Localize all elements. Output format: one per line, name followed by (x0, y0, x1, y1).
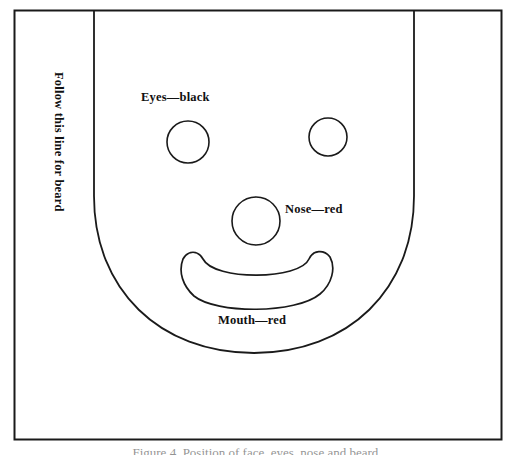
label-beard-guide: Follow this line for beard (51, 72, 66, 212)
figure-caption: Figure 4. Position of face, eyes, nose a… (0, 446, 514, 455)
figure-page: Eyes—black Nose—red Mouth—red Follow thi… (0, 0, 514, 455)
mouth-crescent (181, 252, 333, 310)
nose-circle (232, 197, 280, 245)
outer-border (15, 11, 502, 440)
label-mouth: Mouth—red (218, 313, 286, 328)
right-eye-circle (309, 118, 347, 156)
label-eyes: Eyes—black (141, 90, 210, 105)
face-template-drawing (0, 0, 514, 455)
face-outline (94, 11, 414, 353)
label-nose: Nose—red (285, 202, 343, 217)
left-eye-circle (167, 121, 209, 163)
